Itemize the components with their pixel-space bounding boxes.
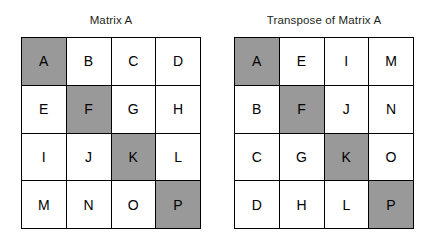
matrix-transpose-figure: Matrix A ABCDEFGHIJKLMNOP Transpose of M… [0,0,433,246]
matrix-a-cell-r2c1: E [22,86,67,134]
matrix-a-cell-r1c1: A [22,38,67,86]
matrix-a-transpose-cell-r1c1: A [235,38,280,86]
matrix-a-transpose-cell-r3c4: O [369,134,414,182]
matrix-a-cell-r3c3: K [112,134,157,182]
matrix-a-cell-r1c4: D [156,38,201,86]
matrix-a-transpose-cell-r4c4: P [369,181,414,229]
matrix-a-cell-r4c2: N [67,181,112,229]
matrix-a-cell-r2c4: H [156,86,201,134]
matrix-a-cell-r1c3: C [112,38,157,86]
matrix-a-transpose-cell-r1c3: I [325,38,370,86]
matrix-a-transpose-cell-r4c3: L [325,181,370,229]
matrix-a-title: Matrix A [21,14,201,27]
matrix-a-transpose-cell-r1c4: M [369,38,414,86]
matrix-a-cell-r1c2: B [67,38,112,86]
matrix-a-transpose-cell-r3c3: K [325,134,370,182]
matrix-a-transpose-cell-r1c2: E [280,38,325,86]
matrix-a-cell-r4c1: M [22,181,67,229]
matrix-a-cell-r3c2: J [67,134,112,182]
matrix-a-transpose-cell-r2c3: J [325,86,370,134]
matrix-a-transpose-grid: AEIMBFJNCGKODHLP [234,37,414,229]
matrix-a-cell-r4c3: O [112,181,157,229]
matrix-a-cell-r4c4: P [156,181,201,229]
matrix-a-cell-r3c1: I [22,134,67,182]
matrix-a-transpose-cell-r2c1: B [235,86,280,134]
matrix-a-cell-r3c4: L [156,134,201,182]
matrix-a-transpose-cell-r2c4: N [369,86,414,134]
matrix-a-cell-r2c2: F [67,86,112,134]
matrix-a-transpose-title: Transpose of Matrix A [234,14,414,27]
matrix-a-transpose-cell-r4c2: H [280,181,325,229]
matrix-a-transpose-cell-r2c2: F [280,86,325,134]
matrix-a-grid: ABCDEFGHIJKLMNOP [21,37,201,229]
matrix-a-cell-r2c3: G [112,86,157,134]
matrix-a-transpose-cell-r3c2: G [280,134,325,182]
matrix-a-transpose-cell-r4c1: D [235,181,280,229]
matrix-a-transpose-cell-r3c1: C [235,134,280,182]
